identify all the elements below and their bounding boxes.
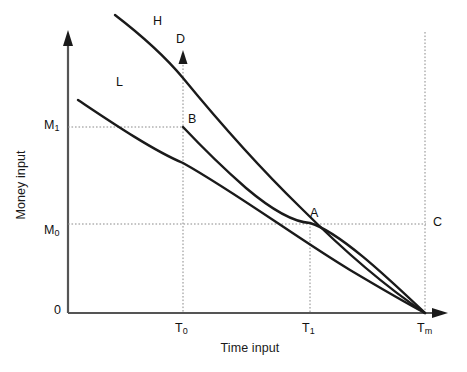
point-c-label: C bbox=[433, 215, 442, 229]
point-a-label: A bbox=[310, 206, 318, 220]
x-axis-arrowhead bbox=[432, 308, 448, 318]
xtick-t1-sub: 1 bbox=[310, 326, 315, 336]
xtick-t0-base: T bbox=[175, 321, 183, 335]
curve-ba bbox=[183, 127, 425, 313]
y-axis-title: Money input bbox=[14, 120, 32, 250]
axes-group bbox=[63, 30, 448, 318]
curve-h bbox=[115, 15, 425, 313]
curves-group bbox=[78, 15, 425, 313]
xtick-tm-label: Tm bbox=[417, 321, 432, 335]
ytick-m0-label: M0 bbox=[44, 223, 59, 237]
d-arrowhead bbox=[179, 50, 188, 64]
chart-figure: Money input Time input 0 M1 M0 T0 T1 Tm … bbox=[0, 0, 467, 372]
ytick-m1-label: M1 bbox=[44, 118, 59, 132]
origin-label: 0 bbox=[54, 303, 61, 317]
curve-l-label: L bbox=[116, 75, 123, 89]
arrow-d-label: D bbox=[176, 32, 185, 46]
ytick-m0-sub: 0 bbox=[54, 228, 59, 238]
curve-l bbox=[78, 100, 425, 313]
xtick-tm-base: T bbox=[417, 321, 425, 335]
ytick-m1-sub: 1 bbox=[54, 123, 59, 133]
point-b-label: B bbox=[188, 112, 196, 126]
xtick-tm-sub: m bbox=[425, 326, 433, 336]
curve-h-label: H bbox=[153, 14, 162, 28]
ytick-m0-base: M bbox=[44, 223, 54, 237]
xtick-t0-label: T0 bbox=[175, 321, 188, 335]
chart-canvas bbox=[0, 0, 467, 372]
x-axis-title: Time input bbox=[190, 341, 310, 355]
ytick-m1-base: M bbox=[44, 118, 54, 132]
y-axis-arrowhead bbox=[63, 30, 73, 46]
xtick-t1-base: T bbox=[302, 321, 310, 335]
xtick-t1-label: T1 bbox=[302, 321, 315, 335]
xtick-t0-sub: 0 bbox=[183, 326, 188, 336]
